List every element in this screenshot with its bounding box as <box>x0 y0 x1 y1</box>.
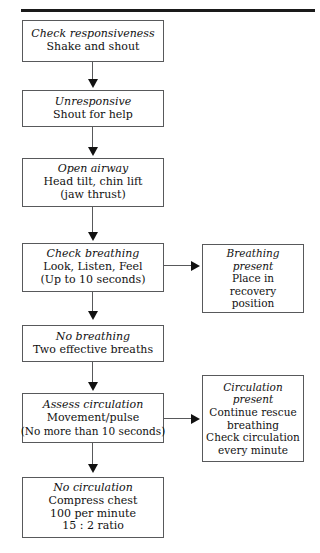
node-check-responsiveness: Check responsiveness Shake and shout <box>22 20 164 62</box>
arrowhead-down-icon <box>88 147 98 156</box>
node-line: No breathing <box>56 331 130 344</box>
node-line: every minute <box>218 444 288 457</box>
node-line: Breathing <box>226 247 279 260</box>
arrowhead-right-icon <box>191 261 200 271</box>
flowchart-canvas: Check responsiveness Shake and shout Unr… <box>0 0 320 553</box>
node-line: Movement/pulse <box>47 412 140 425</box>
node-line: Unresponsive <box>55 96 131 109</box>
node-line: present <box>233 260 274 273</box>
node-open-airway: Open airway Head tilt, chin lift (jaw th… <box>22 158 164 207</box>
connector-open-airway-to-check-breathing <box>92 207 93 235</box>
node-line: Assess circulation <box>43 399 143 412</box>
arrowhead-right-icon <box>191 414 200 424</box>
node-check-breathing: Check breathing Look, Listen, Feel (Up t… <box>22 243 164 292</box>
node-line: 15 : 2 ratio <box>62 520 124 533</box>
node-line: position <box>232 297 274 310</box>
node-unresponsive: Unresponsive Shout for help <box>22 90 164 127</box>
node-line: Continue rescue <box>209 406 296 419</box>
arrowhead-down-icon <box>88 311 98 320</box>
arrowhead-down-icon <box>88 464 98 473</box>
node-assess-circulation: Assess circulation Movement/pulse (No mo… <box>22 393 164 443</box>
node-line: recovery <box>230 285 277 298</box>
node-line: Place in <box>232 272 274 285</box>
arrowhead-down-icon <box>88 79 98 88</box>
arrowhead-down-icon <box>88 232 98 241</box>
node-breathing-present: Breathing present Place in recovery posi… <box>202 244 304 313</box>
node-no-breathing: No breathing Two effective breaths <box>22 325 164 362</box>
connector-assess-circulation-to-circulation-present <box>164 418 194 419</box>
node-line: Check circulation <box>206 431 300 444</box>
node-line: Two effective breaths <box>33 344 153 357</box>
node-line: breathing <box>227 419 279 432</box>
node-line: Shake and shout <box>47 41 140 54</box>
node-line: (jaw thrust) <box>60 189 125 202</box>
node-no-circulation: No circulation Compress chest 100 per mi… <box>22 477 164 538</box>
node-line: Compress chest <box>49 495 138 508</box>
node-line: (No more than 10 seconds) <box>21 425 166 437</box>
node-circulation-present: Circulation present Continue rescue brea… <box>202 375 304 462</box>
top-rule-divider <box>21 9 315 12</box>
node-line: No circulation <box>53 482 133 495</box>
connector-check-breathing-to-breathing-present <box>164 265 194 266</box>
node-line: present <box>233 393 274 406</box>
arrowhead-down-icon <box>88 382 98 391</box>
node-line: Circulation <box>223 381 282 394</box>
node-line: Shout for help <box>53 109 133 122</box>
node-line: (Up to 10 seconds) <box>40 274 145 287</box>
